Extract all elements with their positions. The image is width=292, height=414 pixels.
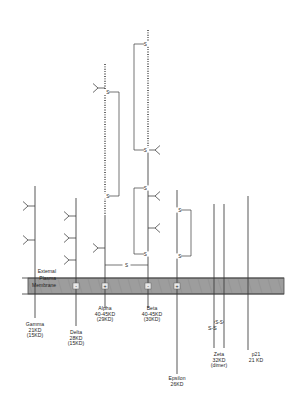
charge-symbol: - — [147, 283, 149, 289]
glycan-icon — [23, 236, 35, 245]
disulfide-alpha-internal-upper: SS — [104, 89, 119, 198]
disulfide-beta-internal-upper: SS — [134, 41, 149, 152]
membrane-label-external: External — [4, 268, 56, 274]
glycan-icon — [148, 224, 160, 233]
disulfide-beta-internal-lower: SS — [134, 185, 149, 256]
charge-marker: + — [102, 283, 108, 289]
glycan-icon — [23, 202, 35, 211]
charge-symbol: + — [103, 283, 106, 289]
glycan-icon — [93, 244, 105, 253]
charge-symbol: - — [75, 283, 77, 289]
disulfide-label: S — [144, 148, 147, 153]
chain-gamma — [23, 186, 35, 318]
disulfide-label: S — [144, 186, 147, 191]
chain-label-beta: Beta 40-45KD (30KD) — [122, 306, 182, 323]
disulfide-label: S — [144, 252, 147, 257]
charge-symbol: + — [175, 283, 178, 289]
glycan-icon — [64, 256, 76, 265]
chain-label-epsilon: Epsilon 26KD — [147, 376, 207, 387]
disulfide-label: S — [144, 42, 147, 47]
membrane-label-membrane: Membrane — [4, 282, 56, 288]
diagram-canvas: SSSSSSSSSS-S -+-+ External Plasma Membra… — [0, 0, 292, 414]
disulfide-label: S — [106, 194, 109, 199]
disulfide-label: S — [178, 254, 181, 259]
chain-label-p21: p21 21 KD — [226, 352, 286, 363]
charge-marker: + — [174, 283, 180, 289]
annotation-ss-bond-right: S-S — [208, 325, 217, 331]
membrane-rect — [28, 278, 284, 294]
plasma-membrane-band — [22, 278, 284, 294]
disulfide-alpha-beta-bridge: S — [105, 262, 148, 267]
charge-marker: - — [145, 283, 151, 289]
glycan-icon — [148, 146, 160, 155]
disulfide-label: S — [106, 90, 109, 95]
glycan-icon — [64, 234, 76, 243]
disulfide-label: S — [125, 263, 128, 268]
disulfide-epsilon-internal: SS — [176, 207, 191, 258]
glycan-icon — [93, 84, 105, 93]
chain-beta — [148, 30, 160, 308]
disulfide-label: S-S — [215, 320, 223, 325]
membrane-label-plasma: Plasma — [4, 275, 56, 281]
glycan-icon — [64, 212, 76, 221]
chain-label-delta: Delta 28KD (15KD) — [46, 330, 106, 347]
disulfide-label: S — [178, 208, 181, 213]
disulfide-zeta-dimer-bridge: S-S — [214, 319, 224, 324]
glycan-icon — [148, 192, 160, 201]
chain-alpha — [93, 64, 105, 308]
charge-marker: - — [73, 283, 79, 289]
